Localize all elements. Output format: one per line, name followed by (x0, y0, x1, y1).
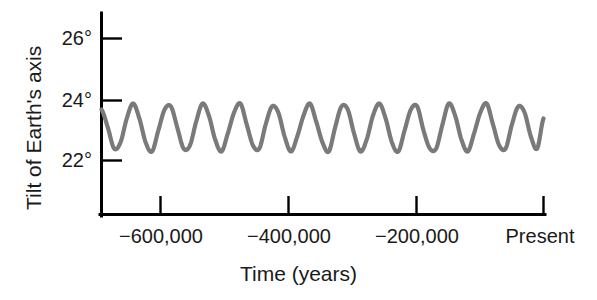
x-tick-label-400000: −400,000 (218, 225, 360, 248)
x-tick-label-200000: −200,000 (346, 225, 488, 248)
y-axis-title: Tilt of Earth's axis (22, 46, 46, 210)
x-tick-label-600000: −600,000 (90, 225, 232, 248)
x-tick-label-present: Present (484, 225, 596, 248)
x-tick-marks (161, 196, 544, 213)
obliquity-data-curve (102, 103, 544, 152)
x-axis-title: Time (years) (0, 262, 597, 286)
obliquity-chart-figure: 26° 24° 22° −600,000 −400,000 −200,000 P… (0, 0, 597, 300)
